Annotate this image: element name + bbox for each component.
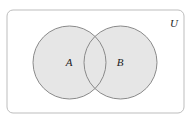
set-b-label: B: [117, 56, 124, 68]
set-a-label: A: [65, 56, 73, 68]
venn-diagram: A B U: [0, 0, 193, 115]
universe-label: U: [170, 17, 179, 29]
